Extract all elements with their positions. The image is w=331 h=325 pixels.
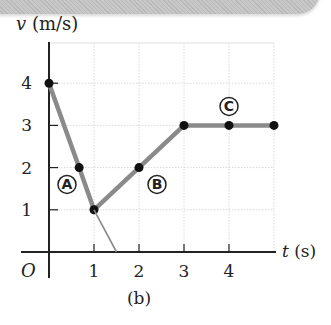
- segment-label-a: A: [62, 176, 73, 192]
- x-tick-label: 1: [89, 261, 100, 281]
- origin-label: O: [21, 260, 36, 281]
- extension-line: [94, 210, 117, 252]
- velocity-time-chart: 12341234𝑣 (m/s)𝑡 (s)O(b)ABC: [0, 0, 331, 325]
- data-point: [75, 163, 84, 172]
- y-tick-label: 2: [21, 158, 32, 178]
- y-tick-label: 3: [21, 115, 32, 135]
- data-point: [180, 121, 189, 130]
- data-point: [135, 163, 144, 172]
- data-point: [225, 121, 234, 130]
- segment-label-b: B: [152, 176, 163, 192]
- y-axis-label: 𝑣 (m/s): [16, 13, 78, 34]
- data-point: [270, 121, 279, 130]
- data-point: [45, 79, 54, 88]
- y-tick-label: 1: [21, 200, 32, 220]
- segment-label-c: C: [224, 98, 234, 114]
- caption: (b): [127, 288, 151, 308]
- x-tick-label: 4: [224, 261, 235, 281]
- x-tick-label: 3: [179, 261, 190, 281]
- y-tick-label: 4: [21, 73, 32, 93]
- x-axis-label: 𝑡 (s): [282, 241, 316, 261]
- x-tick-label: 2: [134, 261, 145, 281]
